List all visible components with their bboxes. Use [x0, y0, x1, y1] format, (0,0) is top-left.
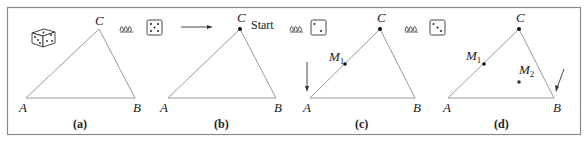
point-label-m1: M1 [328, 49, 344, 66]
spring-icon [405, 27, 418, 32]
triangle-abc [168, 29, 276, 98]
figure-border [8, 8, 581, 135]
vertex-label-b: B [413, 100, 421, 115]
vertex-label-a: A [159, 100, 168, 115]
point-m1 [482, 62, 486, 66]
vertex-label-b: B [553, 100, 561, 115]
vertex-label-c: C [377, 10, 386, 25]
vertex-label-c: C [516, 10, 525, 25]
panel-a: A B C (a) [18, 13, 141, 131]
panel-caption: (d) [494, 117, 509, 131]
die-three-icon [430, 20, 445, 35]
vertex-label-a: A [302, 100, 311, 115]
vertex-label-a: A [442, 100, 451, 115]
point-label-m2: M2 [518, 62, 534, 79]
panel-caption: (a) [73, 117, 87, 131]
triangle-abc [310, 29, 415, 98]
start-label: Start [251, 18, 274, 32]
start-point [238, 27, 242, 31]
panel-b: Start A B C (b) [159, 10, 282, 131]
spring-icon [120, 27, 133, 32]
start-point [517, 27, 521, 31]
vertex-label-c: C [237, 10, 246, 25]
down-left-arrow-icon [557, 69, 564, 88]
die-five-icon [147, 20, 162, 35]
die-two-icon [311, 20, 326, 35]
vertex-label-b: B [274, 100, 282, 115]
vertex-label-b: B [133, 100, 141, 115]
chaos-game-figure: A B C (a) Start A B C (b) [0, 0, 587, 141]
panel-d: M1 M2 A B C (d) [442, 10, 564, 131]
vertex-label-c: C [95, 13, 104, 28]
panel-caption: (c) [355, 117, 368, 131]
spring-icon [290, 27, 303, 32]
panel-caption: (b) [214, 117, 229, 131]
vertex-label-a: A [18, 100, 27, 115]
3d-die-icon [32, 29, 55, 47]
point-m2 [517, 80, 521, 84]
start-point [378, 27, 382, 31]
point-label-m1: M1 [465, 48, 481, 65]
triangle-abc [448, 29, 554, 98]
